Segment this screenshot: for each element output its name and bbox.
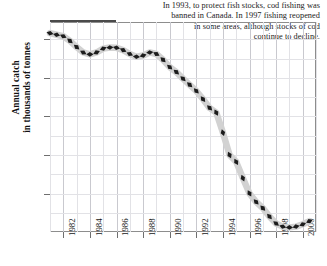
- x-tick: [170, 232, 171, 238]
- y-axis-title: Annual catch in thousands of tonnes: [11, 2, 34, 172]
- x-tick: [196, 232, 197, 238]
- y-axis-title-line-2: in thousands of tonnes: [22, 2, 33, 172]
- y-axis-title-line-1: Annual catch: [11, 2, 22, 172]
- annotation-line-2: banned in Canada. In 1997 fishing reopen…: [108, 11, 320, 21]
- trend-band: [50, 33, 309, 227]
- annotation-line-1: In 1993, to protect fish stocks, cod fis…: [108, 1, 320, 11]
- x-tick: [250, 232, 251, 238]
- x-tick: [276, 232, 277, 238]
- x-tick: [90, 232, 91, 238]
- plot-area: 100200300400500 198219841986198819901992…: [50, 22, 316, 232]
- x-tick: [63, 232, 64, 238]
- x-tick: [303, 232, 304, 238]
- x-tick: [223, 232, 224, 238]
- data-series: [50, 22, 316, 232]
- gridline-vertical: [316, 22, 317, 232]
- chart-figure: In 1993, to protect fish stocks, cod fis…: [0, 0, 327, 266]
- x-tick: [117, 232, 118, 238]
- x-tick: [143, 232, 144, 238]
